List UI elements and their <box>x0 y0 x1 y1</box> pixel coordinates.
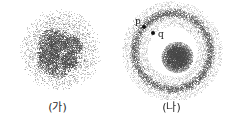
point-marker-p <box>142 25 146 29</box>
figure-root: (가) p q (나) <box>0 0 229 131</box>
panel-a-diffuse-disc: (가) <box>0 0 115 131</box>
panel-a-caption: (가) <box>0 101 115 115</box>
stipple-plot-ring <box>114 0 229 100</box>
point-label-p: p <box>135 17 141 26</box>
panel-b-ring: p q (나) <box>114 0 229 131</box>
stipple-plot-disc <box>0 0 115 100</box>
panel-b-caption: (나) <box>114 101 229 115</box>
point-marker-q <box>151 31 155 35</box>
point-label-q: q <box>158 30 164 39</box>
